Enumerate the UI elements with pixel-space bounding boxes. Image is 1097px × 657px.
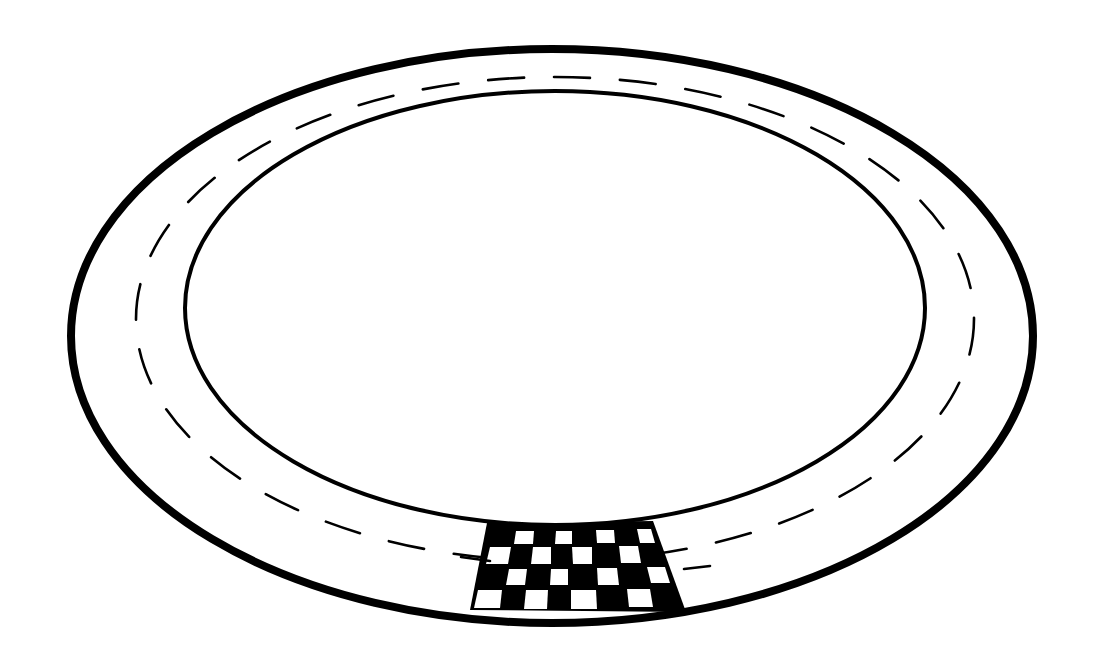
finish-line-white-square	[572, 547, 592, 564]
finish-line-white-square	[619, 546, 641, 563]
race-track-drawing	[0, 0, 1097, 657]
race-track-svg	[0, 0, 1097, 657]
finish-line-white-square	[555, 531, 572, 544]
finish-line-white-square	[596, 530, 615, 543]
finish-line-white-square	[571, 590, 597, 609]
finish-line-white-square	[531, 547, 551, 564]
checkered-finish-line	[470, 521, 686, 612]
finish-line-white-square	[514, 531, 534, 544]
finish-line-white-square	[550, 569, 568, 585]
finish-line-white-square	[524, 590, 548, 609]
finish-line-white-square	[474, 590, 502, 608]
finish-line-white-square	[506, 569, 527, 585]
finish-line-white-square	[627, 589, 653, 607]
finish-line-white-square	[597, 568, 619, 585]
